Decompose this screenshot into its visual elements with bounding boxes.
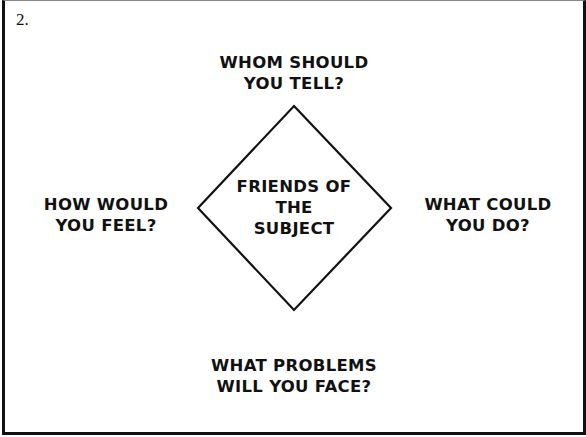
bottom-question-line-2: WILL YOU FACE? <box>184 376 404 397</box>
right-question: WHAT COULD YOU DO? <box>408 194 568 236</box>
top-question-line-1: WHOM SHOULD <box>194 52 394 73</box>
top-question-line-2: YOU TELL? <box>194 73 394 94</box>
center-topic-line-1: FRIENDS OF <box>214 176 374 197</box>
bottom-question-line-1: WHAT PROBLEMS <box>184 355 404 376</box>
right-question-line-2: YOU DO? <box>408 215 568 236</box>
top-question: WHOM SHOULD YOU TELL? <box>194 52 394 94</box>
bottom-question: WHAT PROBLEMS WILL YOU FACE? <box>184 355 404 397</box>
right-question-line-1: WHAT COULD <box>408 194 568 215</box>
left-question-line-2: YOU FEEL? <box>26 215 186 236</box>
left-question-line-1: HOW WOULD <box>26 194 186 215</box>
left-question: HOW WOULD YOU FEEL? <box>26 194 186 236</box>
center-topic-line-2: THE <box>214 197 374 218</box>
center-topic: FRIENDS OF THE SUBJECT <box>214 176 374 239</box>
center-topic-line-3: SUBJECT <box>214 218 374 239</box>
